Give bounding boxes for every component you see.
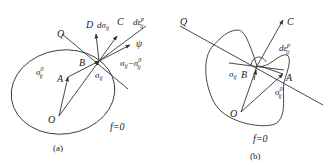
yield-surface-diagram: Q D dσij C dεpij ψ B A O σ0ij σij σij−σ0…	[0, 0, 335, 165]
tangent-line-q-a	[62, 34, 128, 89]
label-deps-a: dεpij	[133, 16, 144, 29]
vector-psi	[99, 45, 130, 61]
label-a-b: A	[285, 72, 293, 83]
label-c-a: C	[117, 16, 124, 27]
caption-a: (a)	[53, 143, 63, 153]
label-c-b: C	[287, 16, 294, 27]
label-o-a: O	[48, 114, 55, 125]
panel-b: Q C dεpij σij B A O σ0ij f=0 (b)	[180, 16, 323, 161]
yield-surface-b	[206, 30, 290, 126]
label-sigma-a: σij	[95, 70, 103, 81]
vector-ab-b	[260, 66, 283, 74]
label-b-b: B	[241, 69, 247, 80]
label-f0-b: f=0	[253, 133, 268, 144]
label-a-a: A	[56, 73, 64, 84]
label-q-a: Q	[57, 28, 65, 39]
label-sigma-diff: σij−σ0ij	[120, 57, 141, 70]
normal-cone-arc-b	[251, 57, 266, 66]
label-sigma-b: σij	[229, 69, 237, 80]
label-o-b: O	[230, 108, 237, 119]
label-sigma0-a: σ0ij	[36, 66, 43, 79]
label-f0-a: f=0	[110, 121, 125, 132]
label-sigma0-b: σ0ij	[275, 86, 282, 99]
label-dsigma: dσij	[97, 20, 110, 31]
label-psi: ψ	[136, 38, 143, 49]
label-deps-b: dεpij	[279, 42, 290, 55]
label-q-b: Q	[180, 16, 188, 27]
caption-b: (b)	[250, 151, 261, 161]
label-d: D	[85, 19, 94, 30]
panel-a: Q D dσij C dεpij ψ B A O σ0ij σij σij−σ0…	[6, 16, 146, 153]
label-b-a: B	[79, 57, 85, 68]
vector-d-dsigma	[96, 34, 99, 61]
vector-c	[99, 36, 117, 61]
